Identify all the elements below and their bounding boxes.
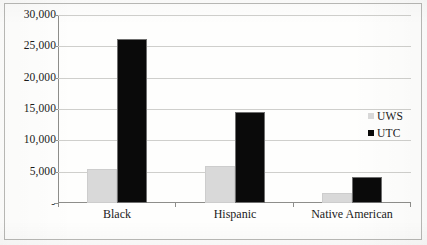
bar-chart: 30,000 25,000 20,000 15,000 10,000 5,000… <box>0 0 427 245</box>
bar-uws-black[interactable] <box>87 169 117 203</box>
bar-utc-hispanic[interactable] <box>235 112 265 203</box>
y-tick-label-30000: 30,000 <box>0 9 56 21</box>
y-tick-label-15000: 15,000 <box>0 103 56 115</box>
gridline-20000 <box>58 78 411 79</box>
x-axis: Black Hispanic Native American <box>58 207 411 229</box>
bar-uws-native-american[interactable] <box>322 193 352 203</box>
legend-item-uws[interactable]: UWS <box>368 108 422 123</box>
gridline-25000 <box>58 46 411 47</box>
legend-label-utc: UTC <box>377 127 401 139</box>
y-tick-mark-25000 <box>54 46 58 47</box>
y-tick-mark-5000 <box>54 172 58 173</box>
chart-legend: UWS UTC <box>368 108 422 142</box>
y-axis: 30,000 25,000 20,000 15,000 10,000 5,000… <box>0 0 56 245</box>
gridline-15000 <box>58 109 411 110</box>
y-tick-label-zero: - <box>0 198 56 209</box>
legend-swatch-utc-icon <box>368 130 374 136</box>
y-tick-label-25000: 25,000 <box>0 40 56 52</box>
y-tick-label-10000: 10,000 <box>0 134 56 146</box>
y-tick-mark-15000 <box>54 109 58 110</box>
legend-swatch-uws-icon <box>368 113 374 119</box>
x-category-label-native-american: Native American <box>311 207 393 222</box>
legend-label-uws: UWS <box>377 110 403 122</box>
y-tick-mark-30000 <box>54 15 58 16</box>
legend-item-utc[interactable]: UTC <box>368 125 422 140</box>
gridline-30000 <box>58 15 411 16</box>
y-tick-label-5000: 5,000 <box>0 166 56 178</box>
bar-uws-hispanic[interactable] <box>205 166 235 203</box>
plot-area <box>58 15 411 203</box>
y-tick-mark-10000 <box>54 140 58 141</box>
bar-utc-native-american[interactable] <box>352 177 382 203</box>
y-tick-mark-20000 <box>54 78 58 79</box>
x-category-label-hispanic: Hispanic <box>214 207 257 222</box>
y-tick-label-20000: 20,000 <box>0 72 56 84</box>
x-category-label-black: Black <box>103 207 131 222</box>
bar-utc-black[interactable] <box>117 39 147 203</box>
